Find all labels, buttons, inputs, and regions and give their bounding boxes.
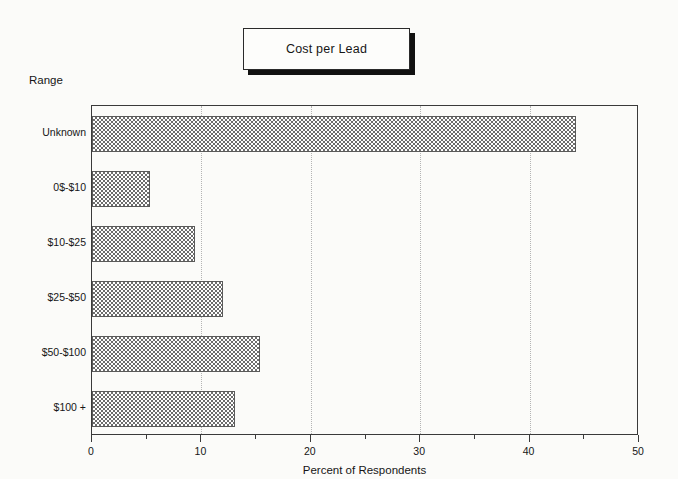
bar-row — [92, 336, 639, 372]
chart-title: Cost per Lead — [286, 42, 367, 56]
x-tick-20 — [310, 435, 311, 442]
x-tick-35 — [474, 435, 475, 439]
y-axis-tick-labels: Unknown0$-$10$10-$25$25-$50$50-$100$100 … — [0, 105, 86, 435]
x-tick-0 — [91, 435, 92, 442]
x-tick-25 — [365, 435, 366, 439]
bar-unknown — [92, 116, 576, 152]
x-tick-label-20: 20 — [304, 445, 316, 457]
gridline-20 — [311, 106, 312, 434]
gridline-40 — [530, 106, 531, 434]
bar--50-100 — [92, 336, 260, 372]
y-tick-label-0: Unknown — [0, 126, 86, 138]
plot-area — [91, 105, 638, 435]
y-tick-label-5: $100 + — [0, 401, 86, 413]
y-tick-label-3: $25-$50 — [0, 291, 86, 303]
x-tick-30 — [419, 435, 420, 442]
bar-row — [92, 116, 639, 152]
y-tick-label-2: $10-$25 — [0, 236, 86, 248]
x-tick-40 — [529, 435, 530, 442]
bar-row — [92, 281, 639, 317]
x-tick-10 — [200, 435, 201, 442]
chart-page: Cost per Lead Range Unknown0$-$10$10-$25… — [0, 0, 678, 479]
gridline-30 — [420, 106, 421, 434]
bar-row — [92, 171, 639, 207]
x-tick-label-30: 30 — [413, 445, 425, 457]
x-tick-label-0: 0 — [88, 445, 94, 457]
bar-0-10 — [92, 171, 150, 207]
y-tick-label-1: 0$-$10 — [0, 181, 86, 193]
gridline-10 — [201, 106, 202, 434]
x-tick-5 — [146, 435, 147, 439]
bar--25-50 — [92, 281, 223, 317]
x-axis-title: Percent of Respondents — [91, 464, 638, 476]
y-tick-label-4: $50-$100 — [0, 346, 86, 358]
x-tick-50 — [638, 435, 639, 442]
y-axis-group-label: Range — [29, 74, 63, 86]
bar--10-25 — [92, 226, 195, 262]
bar-row — [92, 391, 639, 427]
x-tick-45 — [583, 435, 584, 439]
bar--100- — [92, 391, 235, 427]
x-tick-label-40: 40 — [523, 445, 535, 457]
chart-title-box: Cost per Lead — [243, 28, 410, 70]
x-axis: Percent of Respondents 01020304050 — [91, 435, 638, 479]
x-tick-label-10: 10 — [195, 445, 207, 457]
x-tick-label-50: 50 — [632, 445, 644, 457]
x-tick-15 — [255, 435, 256, 439]
bar-row — [92, 226, 639, 262]
